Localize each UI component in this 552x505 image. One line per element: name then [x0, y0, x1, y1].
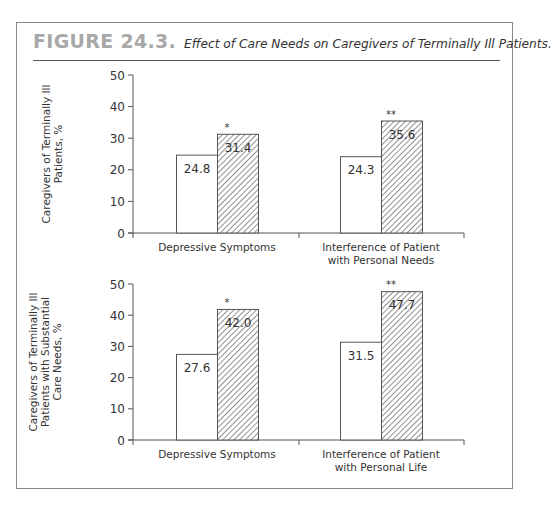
- significance-marker: **: [386, 109, 396, 120]
- significance-marker: **: [386, 279, 396, 290]
- y-tick-label: 40: [110, 100, 125, 114]
- bar-value-label: 31.4: [225, 141, 252, 155]
- bar-hatched: [382, 292, 423, 440]
- bar-value-label: 35.6: [389, 128, 416, 142]
- category-label: Interference of Patient: [322, 241, 440, 253]
- bar-value-label: 31.5: [348, 349, 375, 363]
- bar-value-label: 27.6: [184, 361, 211, 375]
- chart-top: 01020304050Caregivers of Terminally IllP…: [40, 69, 464, 267]
- y-tick-label: 20: [110, 163, 125, 177]
- significance-marker: *: [225, 122, 230, 133]
- category-label: with Personal Life: [335, 461, 428, 473]
- y-tick-label: 10: [110, 402, 125, 416]
- y-tick-label: 10: [110, 195, 125, 209]
- category-label: Depressive Symptoms: [158, 241, 276, 253]
- y-axis-label: Caregivers of Terminally IllPatients wit…: [27, 293, 63, 432]
- y-tick-label: 0: [117, 227, 125, 241]
- bar-value-label: 24.3: [348, 163, 375, 177]
- y-tick-label: 40: [110, 309, 125, 323]
- bar-value-label: 42.0: [225, 316, 252, 330]
- category-label: with Personal Needs: [328, 254, 435, 266]
- y-tick-label: 0: [117, 434, 125, 448]
- bar-value-label: 24.8: [184, 162, 211, 176]
- y-tick-label: 30: [110, 340, 125, 354]
- category-label: Depressive Symptoms: [158, 448, 276, 460]
- bar-value-label: 47.7: [389, 298, 416, 312]
- significance-marker: *: [225, 297, 230, 308]
- category-label: Interference of Patient: [322, 448, 440, 460]
- chart-bottom: 01020304050Caregivers of Terminally IllP…: [27, 278, 464, 474]
- y-tick-label: 50: [110, 69, 125, 83]
- y-tick-label: 50: [110, 278, 125, 292]
- y-tick-label: 20: [110, 371, 125, 385]
- y-tick-label: 30: [110, 132, 125, 146]
- y-axis-label: Caregivers of Terminally IllPatients, %: [40, 85, 64, 224]
